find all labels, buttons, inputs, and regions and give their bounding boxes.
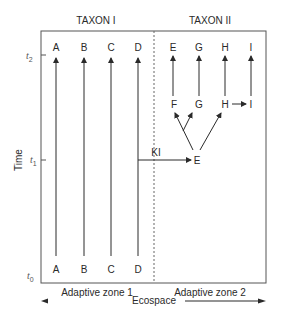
taxon-1-header: TAXON I	[76, 15, 115, 26]
adaptive-zone-2-label: Adaptive zone 2	[174, 287, 246, 298]
ecospace-label: Ecospace	[132, 295, 176, 306]
label-g-top: G	[195, 42, 203, 53]
branch-to-g	[183, 113, 192, 131]
t0-label: t0	[27, 270, 34, 283]
branch-e-to-f	[175, 113, 193, 150]
t2-label: t2	[26, 50, 33, 63]
ecospace-right-arrowhead-icon	[258, 299, 266, 304]
label-e-top: E	[170, 42, 177, 53]
label-a-top: A	[53, 42, 60, 53]
label-h-top: H	[221, 42, 228, 53]
label-h-mid: H	[221, 99, 228, 110]
label-b-bottom: B	[81, 264, 88, 275]
label-c-top: C	[107, 42, 114, 53]
label-d-bottom: D	[134, 264, 141, 275]
y-axis-label: Time	[13, 149, 24, 171]
branch-e-to-h	[200, 113, 221, 150]
label-d-top: D	[134, 42, 141, 53]
label-b-top: B	[81, 42, 88, 53]
t1-label: t1	[30, 154, 37, 167]
label-i-top: I	[250, 42, 253, 53]
adaptive-zone-1-label: Adaptive zone 1	[61, 287, 133, 298]
label-c-bottom: C	[107, 264, 114, 275]
label-e-origin: E	[194, 155, 201, 166]
label-f-mid: F	[171, 99, 177, 110]
label-a-bottom: A	[53, 264, 60, 275]
adaptive-radiation-diagram: TAXON I TAXON II Time t2 t1 t0 A B C D A…	[0, 0, 281, 322]
label-i-mid: I	[250, 99, 253, 110]
taxon-2-header: TAXON II	[189, 15, 231, 26]
ecospace-left-arrowhead-icon	[41, 299, 48, 304]
taxon-1-lineages: A B C D A B C D	[53, 42, 142, 275]
taxon-2-lineages: F G H I E G H I	[170, 42, 253, 150]
label-g-mid: G	[195, 99, 203, 110]
key-innovation-label: KI	[151, 147, 160, 158]
